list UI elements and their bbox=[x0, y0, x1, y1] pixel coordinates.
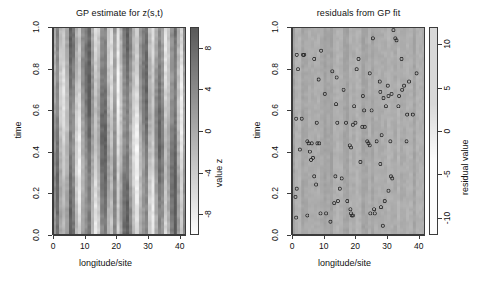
y-axis-line-left bbox=[52, 27, 53, 235]
x-tick-label: 40 bbox=[174, 241, 186, 251]
y-tick-mark bbox=[48, 69, 52, 70]
figure-root: GP estimate for z(s,t) 010203040 0.00.20… bbox=[0, 0, 478, 286]
y-axis-label-left: time bbox=[13, 115, 23, 145]
y-tick-label: 0.0 bbox=[31, 224, 41, 246]
x-tick-mark bbox=[53, 235, 54, 239]
y-axis-label-right: time bbox=[252, 115, 262, 145]
colorbar-tick-label: 0 bbox=[442, 120, 452, 142]
x-tick-label: 30 bbox=[142, 241, 154, 251]
colorbar-tick-label: 0 bbox=[203, 120, 213, 142]
x-axis-label-right: longitude/site bbox=[318, 258, 371, 268]
colorbar-gp-estimate bbox=[190, 27, 199, 235]
colorbar-canvas-gp-estimate bbox=[191, 28, 198, 234]
panel-gp-estimate: GP estimate for z(s,t) 010203040 0.00.20… bbox=[0, 0, 239, 286]
y-tick-mark bbox=[287, 110, 291, 111]
x-tick-mark bbox=[419, 235, 420, 239]
y-tick-mark bbox=[48, 110, 52, 111]
x-tick-mark bbox=[180, 235, 181, 239]
y-tick-mark bbox=[48, 193, 52, 194]
y-tick-mark bbox=[287, 235, 291, 236]
x-tick-label: 20 bbox=[110, 241, 122, 251]
x-tick-mark bbox=[324, 235, 325, 239]
y-tick-mark bbox=[287, 193, 291, 194]
x-tick-mark bbox=[85, 235, 86, 239]
colorbar-gp-residuals bbox=[429, 27, 438, 235]
y-tick-label: 1.0 bbox=[270, 16, 280, 38]
y-tick-mark bbox=[287, 152, 291, 153]
x-axis-line-left bbox=[53, 235, 186, 236]
y-tick-label: 0.6 bbox=[31, 99, 41, 121]
x-tick-mark bbox=[116, 235, 117, 239]
x-tick-mark bbox=[355, 235, 356, 239]
y-tick-mark bbox=[287, 69, 291, 70]
x-tick-label: 20 bbox=[349, 241, 361, 251]
x-tick-mark bbox=[148, 235, 149, 239]
x-tick-label: 30 bbox=[381, 241, 393, 251]
panel-gp-residuals: residuals from GP fit 010203040 0.00.20.… bbox=[239, 0, 478, 286]
y-tick-label: 0.4 bbox=[31, 141, 41, 163]
y-tick-label: 0.2 bbox=[270, 182, 280, 204]
x-tick-label: 10 bbox=[318, 241, 330, 251]
heatmap-canvas-gp-estimate bbox=[54, 28, 185, 234]
colorbar-tick-label: -10 bbox=[442, 207, 452, 229]
x-tick-mark bbox=[387, 235, 388, 239]
x-axis-label-left: longitude/site bbox=[79, 258, 132, 268]
colorbar-tick-label: -8 bbox=[203, 203, 213, 225]
colorbar-canvas-gp-residuals bbox=[430, 28, 437, 234]
colorbar-tick-label: -5 bbox=[442, 163, 452, 185]
colorbar-tick-label: 5 bbox=[442, 77, 452, 99]
y-tick-label: 1.0 bbox=[31, 16, 41, 38]
y-tick-mark bbox=[287, 27, 291, 28]
x-tick-mark bbox=[292, 235, 293, 239]
colorbar-label-gp-residuals: residual value bbox=[460, 141, 470, 195]
y-tick-mark bbox=[48, 235, 52, 236]
x-tick-label: 40 bbox=[413, 241, 425, 251]
y-tick-label: 0.2 bbox=[31, 182, 41, 204]
colorbar-tick-label: 8 bbox=[203, 37, 213, 59]
y-tick-label: 0.8 bbox=[31, 58, 41, 80]
heatmap-plot-area-gp-residuals bbox=[292, 27, 425, 235]
x-tick-label: 10 bbox=[79, 241, 91, 251]
y-tick-mark bbox=[48, 152, 52, 153]
y-tick-mark bbox=[48, 27, 52, 28]
y-tick-label: 0.4 bbox=[270, 141, 280, 163]
x-tick-label: 0 bbox=[286, 241, 298, 251]
y-axis-line-right bbox=[291, 27, 292, 235]
residual-canvas-gp-residuals bbox=[293, 28, 424, 234]
x-tick-label: 0 bbox=[47, 241, 59, 251]
colorbar-label-gp-estimate: value z bbox=[214, 153, 224, 193]
y-tick-label: 0.8 bbox=[270, 58, 280, 80]
colorbar-tick-label: 10 bbox=[442, 33, 452, 55]
y-tick-label: 0.0 bbox=[270, 224, 280, 246]
x-axis-line-right bbox=[292, 235, 425, 236]
colorbar-tick-label: -4 bbox=[203, 162, 213, 184]
y-tick-label: 0.6 bbox=[270, 99, 280, 121]
heatmap-plot-area-gp-estimate bbox=[53, 27, 186, 235]
colorbar-tick-label: 4 bbox=[203, 78, 213, 100]
